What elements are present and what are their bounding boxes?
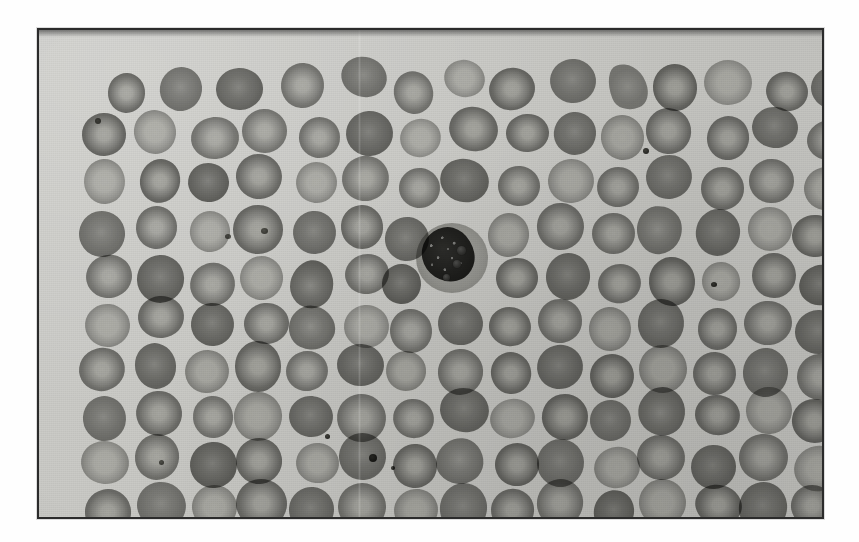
leukocyte-granule [443, 274, 450, 281]
platelet [95, 118, 101, 124]
platelet [369, 454, 377, 462]
platelet [159, 460, 164, 465]
platelet [391, 466, 395, 470]
scan-seam-artifact [358, 30, 361, 517]
photomicrograph-frame [37, 28, 824, 519]
leukocyte-granule [457, 246, 466, 255]
page-canvas [0, 0, 859, 542]
leukocyte-granule [453, 260, 461, 268]
erythrocyte [751, 252, 797, 299]
micrograph-field [39, 30, 822, 517]
platelet [325, 434, 330, 439]
top-shadow-band [39, 30, 822, 37]
platelet [643, 148, 649, 154]
platelet [261, 228, 268, 234]
platelet [711, 282, 717, 287]
platelet [225, 234, 231, 239]
